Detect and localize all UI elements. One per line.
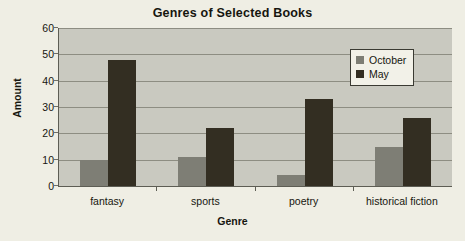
x-tick-label: sports — [156, 195, 254, 207]
y-axis-tick-labels: 0102030405060 — [26, 28, 54, 186]
bar-may-historical-fiction — [403, 118, 431, 186]
x-tick-label: historical fiction — [353, 195, 451, 207]
x-tick-label: poetry — [255, 195, 353, 207]
y-tick-label: 40 — [26, 76, 54, 86]
legend-item-october: October — [356, 53, 406, 67]
bar-may-poetry — [305, 99, 333, 186]
x-tick-mark — [255, 186, 256, 191]
bar-october-sports — [178, 157, 206, 186]
bar-group — [256, 28, 354, 186]
chart-legend: OctoberMay — [350, 49, 414, 86]
bar-october-poetry — [277, 175, 305, 186]
bar-chart-figure: Genres of Selected Books Amount 01020304… — [0, 0, 465, 241]
bar-may-sports — [206, 128, 234, 186]
x-axis-title: Genre — [0, 215, 465, 227]
legend-label: May — [369, 69, 389, 80]
legend-swatch-icon — [356, 70, 364, 78]
bar-group — [157, 28, 255, 186]
bar-october-historical-fiction — [375, 147, 403, 187]
y-tick-label: 0 — [26, 181, 54, 191]
y-tick-label: 50 — [26, 49, 54, 59]
legend-item-may: May — [356, 67, 406, 81]
y-tick-label: 60 — [26, 23, 54, 33]
y-tick-label: 30 — [26, 102, 54, 112]
x-tick-mark — [353, 186, 354, 191]
y-tick-label: 10 — [26, 155, 54, 165]
legend-swatch-icon — [356, 56, 364, 64]
bar-group — [59, 28, 157, 186]
y-axis-title: Amount — [11, 68, 23, 128]
chart-title: Genres of Selected Books — [0, 6, 465, 20]
legend-label: October — [369, 55, 406, 66]
x-tick-mark — [156, 186, 157, 191]
bar-may-fantasy — [108, 60, 136, 186]
bar-october-fantasy — [80, 160, 108, 186]
y-tick-label: 20 — [26, 128, 54, 138]
x-tick-label: fantasy — [58, 195, 156, 207]
